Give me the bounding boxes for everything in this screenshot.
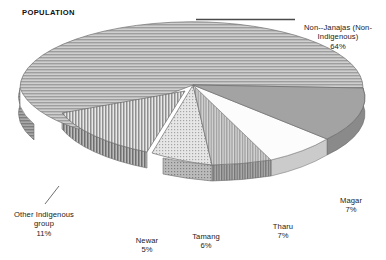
slice-label-other-indigenous-pct: 11% <box>6 229 82 239</box>
slice-label-magar-pct: 7% <box>328 205 374 215</box>
slice-label-tamang-pct: 6% <box>182 241 230 251</box>
slice-label-nonjanajas-pct: 64% <box>292 42 384 52</box>
bottom-caption <box>0 251 386 260</box>
slice-label-tharu: Tharu 7% <box>260 212 306 250</box>
slice-label-newar-name: Newar <box>136 236 158 245</box>
slice-label-nonjanajas-name: Non--Janajas (Non- Indigenous) <box>304 23 372 42</box>
slice-label-other-indigenous-name: Other Indigenous group <box>14 210 74 229</box>
slice-label-magar: Magar 7% <box>328 186 374 224</box>
slice-label-magar-name: Magar <box>340 196 362 205</box>
slice-label-nonjanajas: Non--Janajas (Non- Indigenous) 64% <box>292 13 384 61</box>
chart-title: POPULATION <box>22 8 75 17</box>
slice-label-other-indigenous: Other Indigenous group 11% <box>6 200 82 248</box>
slice-label-tamang-name: Tamang <box>192 232 220 241</box>
pie-chart: POPULATION Non--Janajas (Non- Indigenous… <box>0 0 386 260</box>
slice-label-tharu-pct: 7% <box>260 231 306 241</box>
slice-label-tharu-name: Tharu <box>273 222 293 231</box>
